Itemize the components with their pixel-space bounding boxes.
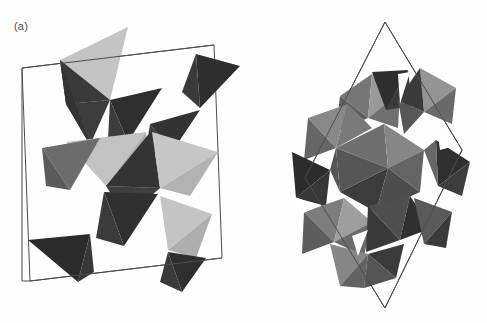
tetrahedron-lower-right-dark bbox=[160, 252, 206, 292]
figure-root: (a) bbox=[0, 0, 487, 323]
tetrahedron-lower-right-light bbox=[160, 196, 212, 258]
octahedron-right-mid bbox=[424, 140, 470, 196]
tetrahedron-lower-dark bbox=[96, 192, 158, 246]
panel-b-structure-graphic bbox=[245, 0, 487, 323]
tetrahedron-center-right-light bbox=[152, 132, 218, 196]
panel-a-structure-graphic bbox=[0, 0, 245, 323]
panel-a-label: (a) bbox=[14, 20, 28, 32]
panel-a: (a) bbox=[0, 0, 245, 323]
tetrahedron-upper-right-isolated bbox=[182, 54, 240, 108]
octahedron-lower-right bbox=[414, 198, 452, 248]
panel-b: (b) bbox=[245, 0, 487, 323]
